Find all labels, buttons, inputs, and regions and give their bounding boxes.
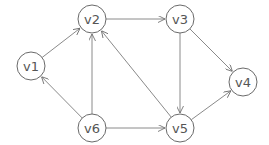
edge-v5-to-v2 (101, 31, 171, 117)
node-v5: v5 (166, 114, 194, 142)
graph-canvas: v1v2v3v4v5v6 (0, 0, 269, 145)
node-label: v1 (23, 59, 39, 74)
arrow-line (42, 28, 80, 57)
node-label: v2 (84, 12, 100, 27)
node-label: v5 (172, 121, 188, 136)
edge-v6-to-v1 (42, 77, 83, 118)
edge-v5-to-v4 (191, 91, 231, 120)
node-v2: v2 (78, 5, 106, 33)
node-label: v3 (172, 12, 188, 27)
node-v1: v1 (17, 52, 45, 80)
node-v6: v6 (78, 114, 106, 142)
node-v3: v3 (166, 5, 194, 33)
edges-layer (42, 19, 233, 128)
edge-v1-to-v2 (42, 28, 80, 57)
arrow-line (190, 29, 233, 72)
arrow-line (191, 91, 231, 120)
node-label: v4 (235, 75, 251, 90)
edge-v3-to-v4 (190, 29, 233, 72)
node-v4: v4 (229, 68, 257, 96)
arrow-line (101, 31, 171, 117)
node-label: v6 (84, 121, 100, 136)
nodes-layer: v1v2v3v4v5v6 (17, 5, 257, 142)
arrow-line (42, 77, 83, 118)
